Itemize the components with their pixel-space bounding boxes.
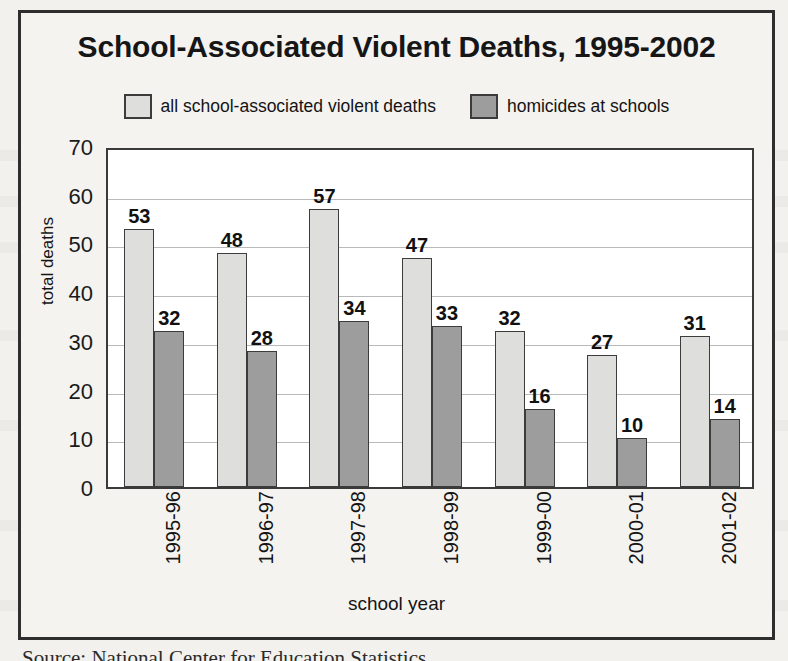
bar-value-label: 53 [128,205,150,228]
bar: 33 [432,326,462,487]
bar: 32 [154,331,184,487]
chart-title: School-Associated Violent Deaths, 1995-2… [21,30,772,64]
bar-group: 4828 [201,150,294,487]
y-axis-tick-label: 60 [69,184,93,210]
bar: 27 [587,355,617,487]
scanned-page: School-Associated Violent Deaths, 1995-2… [0,0,788,661]
bar: 48 [217,253,247,487]
y-axis-tick-label: 50 [69,232,93,258]
bar-value-label: 48 [221,229,243,252]
x-axis-tick-label: 1995-96 [162,491,185,564]
y-axis-tick-label: 70 [69,135,93,161]
bar-value-label: 16 [528,385,550,408]
legend-item: homicides at schools [470,94,669,119]
bar: 34 [339,321,369,487]
legend-swatch [124,94,152,119]
source-caption: Source: National Center for Education St… [22,646,762,661]
bar: 28 [247,351,277,487]
bar-group: 2710 [571,150,664,487]
bar: 32 [495,331,525,487]
x-axis-ticks: 1995-961996-971997-981998-991999-002000-… [106,491,754,587]
bar: 31 [680,336,710,487]
y-axis-tick-label: 40 [69,281,93,307]
y-axis-tick-label: 0 [81,476,93,502]
bar-group: 3114 [663,150,756,487]
y-axis-title: total deaths [38,201,58,321]
x-axis-title: school year [21,593,772,615]
bar-value-label: 28 [251,327,273,350]
y-axis-tick-label: 20 [69,379,93,405]
bar-value-label: 57 [313,185,335,208]
x-axis-tick-label: 1998-99 [440,491,463,564]
chart-figure: School-Associated Violent Deaths, 1995-2… [18,10,775,640]
x-axis-tick-label: 2000-01 [625,491,648,564]
legend-item: all school-associated violent deaths [124,94,436,119]
bar-value-label: 10 [621,414,643,437]
bar-value-label: 47 [406,234,428,257]
x-axis-tick-label: 1999-00 [533,491,556,564]
bar-group: 4733 [386,150,479,487]
bars-layer: 5332482857344733321627103114 [108,150,752,487]
legend-label: homicides at schools [507,96,669,117]
bar: 47 [402,258,432,487]
bar: 16 [525,409,555,487]
bar-group: 3216 [478,150,571,487]
y-axis-tick-label: 10 [69,427,93,453]
y-axis-tick-label: 30 [69,330,93,356]
bar-value-label: 27 [591,331,613,354]
bar-value-label: 32 [158,307,180,330]
x-axis-tick-label: 2001-02 [718,491,741,564]
bar-value-label: 14 [714,395,736,418]
bar-value-label: 31 [684,312,706,335]
bar: 10 [617,438,647,487]
bar: 57 [309,209,339,487]
legend-swatch [470,94,498,119]
y-axis-ticks: 706050403020100 [21,148,101,489]
plot-area: 5332482857344733321627103114 [106,148,754,489]
bar-group: 5332 [108,150,201,487]
legend-label: all school-associated violent deaths [161,96,436,117]
x-axis-tick-label: 1996-97 [255,491,278,564]
bar: 53 [124,229,154,487]
bar-group: 5734 [293,150,386,487]
bar-value-label: 33 [436,302,458,325]
x-axis-tick-label: 1997-98 [347,491,370,564]
chart-legend: all school-associated violent deathshomi… [21,94,772,119]
bar: 14 [710,419,740,487]
bar-value-label: 32 [498,307,520,330]
bar-value-label: 34 [343,297,365,320]
